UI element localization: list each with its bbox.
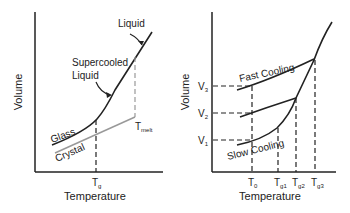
- label-fast-cooling: Fast Cooling: [238, 62, 295, 84]
- label-slow-cooling: Slow Cooling: [226, 137, 285, 162]
- label-tg: Tg: [92, 177, 101, 189]
- right-y-label: Volume: [179, 74, 191, 111]
- label-supercooled-2: Liquid: [72, 70, 99, 81]
- label-glass: Glass: [49, 126, 77, 145]
- label-tg1: Tg1: [274, 177, 287, 189]
- label-v3: V3: [198, 81, 209, 93]
- right-x-label: Temperature: [239, 190, 301, 202]
- label-v2: V2: [198, 108, 209, 120]
- label-tg3: Tg3: [311, 177, 324, 189]
- left-x-label: Temperature: [64, 190, 126, 202]
- glass-transition-diagram: Liquid Supercooled Liquid Glass Crystal …: [0, 0, 350, 213]
- liquid-arrow-icon: [130, 34, 142, 45]
- right-panel: Fast Cooling Slow Cooling V3 V2 V1 T0 Tg…: [179, 12, 336, 202]
- label-tg2: Tg2: [292, 177, 305, 189]
- left-y-label: Volume: [12, 74, 24, 111]
- liquid-curve: [277, 22, 332, 128]
- label-v1: V1: [198, 135, 209, 147]
- label-supercooled-1: Supercooled: [72, 57, 128, 68]
- left-panel: Liquid Supercooled Liquid Glass Crystal …: [12, 12, 163, 202]
- label-t0: T0: [248, 177, 258, 189]
- label-crystal: Crystal: [53, 141, 86, 164]
- label-liquid: Liquid: [118, 18, 145, 29]
- label-tmelt: Tmelt: [135, 121, 153, 133]
